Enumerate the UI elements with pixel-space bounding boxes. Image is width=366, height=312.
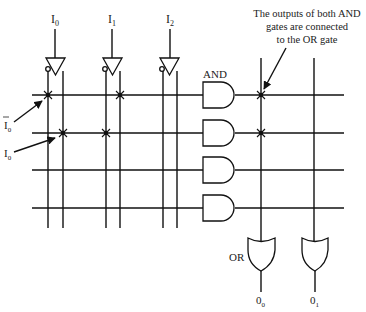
arrow-icon bbox=[264, 48, 286, 89]
inverter-bubble-i1 bbox=[103, 67, 108, 72]
output-labels: 00 01 bbox=[256, 294, 320, 309]
and-gate-1-icon bbox=[203, 82, 234, 108]
input-label-i0: I0 bbox=[51, 12, 59, 28]
or-label: OR bbox=[229, 251, 245, 263]
input-label-i1: I1 bbox=[108, 12, 116, 28]
and-label: AND bbox=[203, 68, 227, 80]
annotation-line-1: The outputs of both AND bbox=[253, 8, 361, 19]
and-gate-4-icon bbox=[203, 195, 234, 221]
output-label-o1: 01 bbox=[310, 294, 320, 309]
pla-diagram: I0 I1 I2 AN bbox=[0, 0, 366, 312]
and-gate-2-icon bbox=[203, 120, 234, 146]
input-label-i2: I2 bbox=[166, 12, 174, 28]
annotation-line-3: to the OR gate bbox=[277, 34, 338, 45]
annotation-line-2: gates are connected bbox=[266, 21, 349, 32]
input-buffers bbox=[46, 29, 179, 75]
or-gates: OR bbox=[229, 238, 328, 292]
product-lines bbox=[32, 95, 344, 208]
input-labels: I0 I1 I2 bbox=[51, 12, 174, 28]
and-gate-3-icon bbox=[203, 157, 234, 183]
inverter-bubble-i0 bbox=[46, 67, 51, 72]
output-columns bbox=[261, 58, 314, 241]
arrow-icon bbox=[14, 101, 42, 122]
or-gate-o1-icon bbox=[302, 238, 328, 271]
and-gates: AND bbox=[203, 68, 234, 221]
output-label-o0: 00 bbox=[256, 294, 266, 309]
side-labels: I0 I0 bbox=[3, 101, 55, 162]
inverter-bubble-i2 bbox=[160, 67, 165, 72]
arrow-icon bbox=[14, 138, 55, 152]
annotation: The outputs of both AND gates are connec… bbox=[253, 8, 361, 89]
or-gate-o0-icon bbox=[248, 238, 275, 271]
side-label-i0-bar: I0 bbox=[4, 119, 12, 134]
side-label-i0: I0 bbox=[4, 147, 12, 162]
